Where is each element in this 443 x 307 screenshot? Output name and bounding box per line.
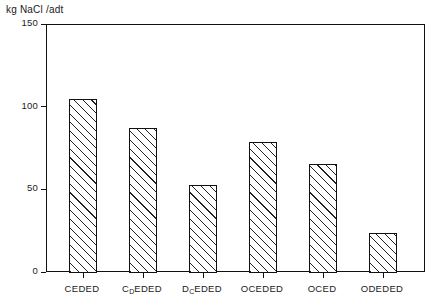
x-category-label: DCEDED (182, 283, 222, 294)
category-label-subscript: C (189, 288, 194, 295)
x-category-label: CEDED (65, 283, 100, 294)
y-tick-label: 50 (27, 182, 38, 193)
x-tick-mark (263, 273, 264, 278)
category-label-subscript: D (129, 288, 134, 295)
y-axis-title: kg NaCl /adt (6, 4, 63, 15)
y-tick-label: 0 (33, 265, 38, 276)
x-tick-mark (143, 273, 144, 278)
bar (249, 142, 277, 273)
bar (69, 99, 97, 273)
bar (369, 233, 397, 273)
category-label-main: CEDED (65, 283, 100, 294)
bar (129, 128, 157, 273)
x-tick-mark (83, 273, 84, 278)
y-tick-label: 150 (22, 17, 38, 28)
x-category-label: OCEDED (241, 283, 283, 294)
category-label-main: ODEDED (361, 283, 403, 294)
plot-area (46, 24, 425, 272)
category-label-main: OCED (308, 283, 337, 294)
y-tick-label: 100 (22, 100, 38, 111)
category-label-main: OCEDED (241, 283, 283, 294)
bar (309, 164, 337, 273)
x-category-label: CDEDED (122, 283, 162, 294)
bar-chart-figure: kg NaCl /adt 050100150 CEDEDCDEDEDDCEDED… (0, 0, 443, 307)
bar (189, 185, 217, 273)
x-tick-mark (323, 273, 324, 278)
x-category-label: ODEDED (361, 283, 403, 294)
x-category-label: OCED (308, 283, 337, 294)
category-label-tail: EDED (194, 283, 222, 294)
category-label-tail: EDED (134, 283, 162, 294)
x-tick-mark (203, 273, 204, 278)
x-tick-mark (383, 273, 384, 278)
